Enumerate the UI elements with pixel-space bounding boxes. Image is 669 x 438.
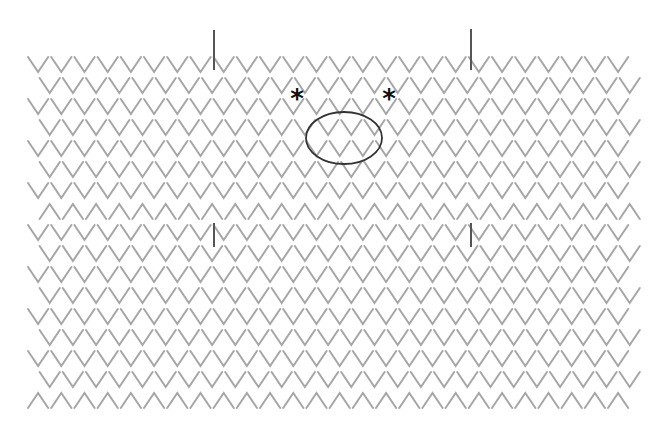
stitch-row (28, 183, 628, 198)
knitting-chart: ** (0, 0, 669, 438)
stitch-row (28, 309, 628, 324)
stitch-row (40, 288, 640, 303)
stitch-row (40, 78, 640, 93)
stitch-row (40, 372, 640, 387)
knit-stitch-row-path (28, 225, 628, 240)
stitch-row (28, 99, 628, 114)
asterisk-left-icon: * (290, 84, 304, 114)
knit-stitch-row-path (28, 57, 628, 72)
highlight-oval-shape (306, 112, 382, 164)
knit-stitch-row-path (28, 99, 628, 114)
highlight-oval (306, 112, 382, 164)
stitch-row (28, 141, 628, 156)
stitch-row (28, 225, 628, 240)
stitch-row (28, 267, 628, 282)
stitch-chart-svg: ** (0, 0, 669, 438)
knit-stitch-row-path (40, 330, 640, 345)
knit-stitch-row-path (28, 141, 628, 156)
stitch-row (40, 330, 640, 345)
stitch-row (40, 246, 640, 261)
stitch-row (28, 351, 628, 366)
knit-stitch-row-path (40, 288, 640, 303)
stitch-row (40, 120, 640, 135)
knit-stitch-row-path (40, 372, 640, 387)
knit-stitch-row-path (28, 267, 628, 282)
knit-stitch-row-path (28, 183, 628, 198)
knit-stitch-row-path (40, 246, 640, 261)
stitch-row (28, 393, 628, 408)
inverted-stitch-row-path (40, 204, 640, 219)
stitch-row (40, 204, 640, 219)
knit-stitch-row-path (40, 120, 640, 135)
inverted-stitch-row-path (28, 393, 628, 408)
stitch-row (28, 57, 628, 72)
knit-stitch-row-path (40, 78, 640, 93)
stitch-rows (28, 57, 640, 408)
knit-stitch-row-path (28, 351, 628, 366)
knit-stitch-row-path (28, 309, 628, 324)
asterisk-right-icon: * (382, 84, 396, 114)
